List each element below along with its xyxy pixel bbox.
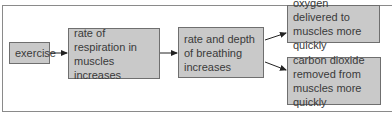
arrow-breathing-to-oxygen — [265, 33, 286, 40]
arrow-breathing-to-co2 — [265, 62, 286, 70]
